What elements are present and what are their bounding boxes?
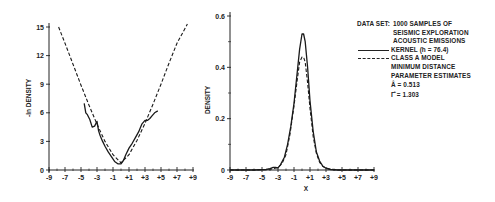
kernel-curve-solid bbox=[84, 103, 158, 164]
solid-line-swatch-icon bbox=[357, 46, 391, 55]
y-axis-title: -ln DENSITY bbox=[25, 78, 32, 117]
x-tick-label: +5 bbox=[157, 174, 165, 181]
y-tick-label: 9 bbox=[40, 81, 44, 88]
x-tick-label: -5 bbox=[259, 174, 265, 181]
x-tick-label: -1 bbox=[110, 174, 116, 181]
x-tick-label: +3 bbox=[141, 174, 149, 181]
x-tick-label: +7 bbox=[173, 174, 181, 181]
y-tick-label: 6 bbox=[40, 109, 44, 116]
right-plot-density: -9-7-5-3-1+1+3+5+7+900.20.40.6DENSITYX bbox=[204, 12, 378, 192]
y-axis-title: DENSITY bbox=[204, 85, 211, 114]
legend-data-set-line-3: ACOUSTIC EMISSIONS bbox=[393, 37, 495, 46]
y-tick-label: 0 bbox=[221, 167, 225, 174]
kernel-curve-solid bbox=[230, 34, 374, 170]
y-tick-label: 15 bbox=[36, 24, 44, 31]
legend-kernel-label: KERNEL (h = 76.4) bbox=[391, 46, 495, 55]
legend-model-line-2: MINIMUM DISTANCE bbox=[391, 63, 495, 72]
x-tick-label: -1 bbox=[291, 174, 297, 181]
y-tick-label: 0 bbox=[40, 167, 44, 174]
dashed-line-swatch-icon bbox=[357, 54, 391, 63]
x-tick-label: +1 bbox=[125, 174, 133, 181]
x-axis-title: X bbox=[304, 185, 309, 192]
y-tick-label: 12 bbox=[36, 52, 44, 59]
x-tick-label: +5 bbox=[338, 174, 346, 181]
x-tick-label: -5 bbox=[78, 174, 84, 181]
x-tick-label: +3 bbox=[322, 174, 330, 181]
legend-model-line-1: CLASS A MODEL bbox=[391, 54, 495, 63]
left-plot-neg-ln-density: -9-7-5-3-1+1+3+5+7+903691215-ln DENSITY bbox=[25, 23, 197, 181]
x-tick-label: +1 bbox=[306, 174, 314, 181]
x-tick-label: -3 bbox=[94, 174, 100, 181]
model-curve-dashed bbox=[230, 57, 374, 170]
legend-model-line-3: PARAMETER ESTIMATES bbox=[391, 72, 495, 81]
legend-a-hat: Â = 0.513 bbox=[391, 81, 495, 90]
x-tick-label: +7 bbox=[354, 174, 362, 181]
y-tick-label: 0.4 bbox=[215, 64, 225, 71]
y-tick-label: 0.6 bbox=[215, 13, 225, 20]
legend-data-set-line-2: SEISMIC EXPLORATION bbox=[393, 29, 495, 38]
x-tick-label: +9 bbox=[370, 174, 378, 181]
x-tick-label: -3 bbox=[275, 174, 281, 181]
model-curve-dashed bbox=[59, 24, 188, 163]
legend: DATA SET: 1000 SAMPLES OF SEISMIC EXPLOR… bbox=[357, 20, 495, 99]
axes: -9-7-5-3-1+1+3+5+7+900.20.40.6DENSITYX bbox=[204, 12, 378, 192]
y-tick-label: 3 bbox=[40, 138, 44, 145]
legend-data-set: DATA SET: 1000 SAMPLES OF SEISMIC EXPLOR… bbox=[357, 20, 495, 46]
legend-kernel-entry: KERNEL (h = 76.4) bbox=[357, 46, 495, 55]
legend-gamma-hat: Γ̂ = 1.303 bbox=[391, 91, 495, 100]
x-tick-label: -7 bbox=[243, 174, 249, 181]
x-tick-label: -9 bbox=[227, 174, 233, 181]
y-tick-label: 0.2 bbox=[215, 115, 225, 122]
x-tick-label: -9 bbox=[46, 174, 52, 181]
x-tick-label: -7 bbox=[62, 174, 68, 181]
legend-model-entry: CLASS A MODEL MINIMUM DISTANCE PARAMETER… bbox=[357, 54, 495, 99]
x-tick-label: +9 bbox=[189, 174, 197, 181]
legend-data-set-line-1: 1000 SAMPLES OF bbox=[393, 20, 495, 29]
legend-data-set-key: DATA SET: bbox=[357, 20, 393, 46]
